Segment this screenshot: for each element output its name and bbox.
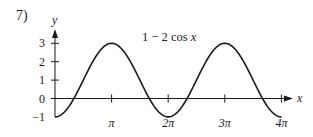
x-tick-label: π <box>109 116 116 130</box>
y-tick-label: 1 <box>39 73 45 87</box>
y-tick-label: 0 <box>39 92 45 106</box>
y-tick-label: −1 <box>32 110 45 124</box>
y-tick-label: 2 <box>39 55 45 69</box>
y-axis-arrow-icon <box>52 29 58 38</box>
x-tick-label: 3π <box>218 116 232 130</box>
tick-labels: −10123π2π3π4π <box>32 36 288 130</box>
y-tick-label: 3 <box>39 36 45 50</box>
curve-label: 1 − 2 cos x <box>142 30 197 44</box>
function-curve <box>55 43 281 117</box>
x-tick-label: 2π <box>162 116 175 130</box>
x-axis-label: x <box>296 91 303 105</box>
axis-ticks <box>51 43 281 102</box>
x-tick-label: 4π <box>275 116 288 130</box>
chart-plot: −10123π2π3π4π 1 − 2 cos x y x <box>0 0 313 137</box>
y-axis-label: y <box>51 13 58 27</box>
x-axis-arrow-icon <box>284 96 293 102</box>
